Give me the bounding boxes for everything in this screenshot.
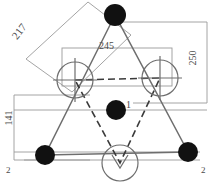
node-top (104, 4, 126, 26)
section-marker-bottom-right: 2 (201, 166, 206, 175)
crosshair-right (138, 56, 182, 100)
dimension-label-250: 250 (188, 51, 198, 66)
node-bottom-left (35, 145, 55, 165)
dimension-label-141: 141 (4, 111, 14, 126)
drawing-vector-layer (0, 0, 218, 184)
dimension-label-245: 245 (99, 41, 114, 51)
triangle-outline (45, 15, 188, 155)
node-bottom-right (178, 142, 198, 162)
callout-label-center: 1 (126, 100, 131, 110)
node-center (106, 100, 126, 120)
technical-drawing-canvas: 217 245 250 141 1 2 2 (0, 0, 218, 184)
main-triangle (45, 15, 188, 155)
section-marker-bottom-left: 2 (6, 166, 11, 175)
